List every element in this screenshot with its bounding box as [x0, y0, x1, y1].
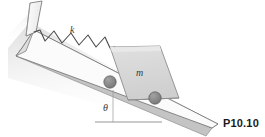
wheel-left	[104, 76, 116, 88]
wheel-right	[149, 92, 161, 104]
angle-label: θ	[103, 102, 108, 113]
figure-id-label: P10.10	[223, 117, 259, 129]
mass-label: m	[136, 67, 143, 78]
block-top-highlight	[110, 46, 161, 52]
spring-constant-label: k	[70, 24, 75, 35]
figure-container: k m θ P10.10	[0, 0, 265, 137]
